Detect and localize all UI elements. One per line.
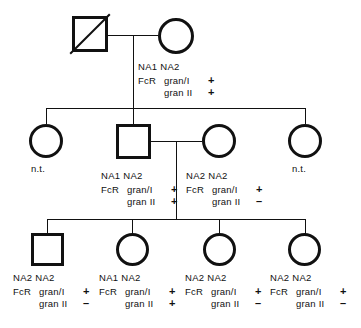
genotype-gran2-row: gran II– <box>270 297 347 310</box>
sibship-line-gen2 <box>46 108 305 109</box>
genotype-gran1-row: FcRgran/I+ <box>99 285 176 298</box>
gran2-sign: – <box>256 195 262 208</box>
descent-line-gen1 <box>133 35 134 108</box>
sibling-drop-line-II-4 <box>305 108 306 124</box>
gran1-sign: + <box>171 183 178 196</box>
genotype-alleles: NA1 NA2 <box>99 272 176 285</box>
gran2-sign: + <box>171 195 178 208</box>
genotype-gran2-row: gran II+ <box>99 297 176 310</box>
genotype-gran1-row: FcRgran/I+ <box>101 183 178 196</box>
genotype-gran2-row: gran II– <box>185 297 262 310</box>
pedigree-chart: NA1 NA2 FcRgran/I+ gran II+ n.t. n.t. NA… <box>0 0 361 328</box>
individual-II-4-female-symbol <box>288 124 322 158</box>
genotype-alleles: NA2 NA2 <box>185 272 262 285</box>
genotype-alleles: NA2 NA2 <box>13 272 90 285</box>
genotype-gen1-mother: NA1 NA2 FcRgran/I+ gran II+ <box>138 61 215 99</box>
individual-III-4-female-symbol <box>288 233 321 266</box>
genotype-gen2-father: NA1 NA2 FcRgran/I+ gran II+ <box>101 170 178 208</box>
genotype-gran2-row: gran II– <box>186 195 263 208</box>
gran2-label: gran II <box>39 298 83 311</box>
genotype-gran1-row: FcRgran/I+ <box>270 285 347 298</box>
genotype-alleles: NA2 NA2 <box>186 170 263 183</box>
sibling-drop-line-III-3 <box>219 219 220 234</box>
gran2-label: gran II <box>127 196 171 209</box>
gran1-sign: + <box>256 183 263 196</box>
genotype-gen3-child3: NA2 NA2 FcRgran/I+ gran II– <box>185 272 262 310</box>
genotype-gen2-mother: NA2 NA2 FcRgran/I+ gran II– <box>186 170 263 208</box>
genotype-gran1-row: FcRgran/I+ <box>13 285 90 298</box>
genotype-alleles: NA2 NA2 <box>270 272 347 285</box>
not-tested-label-II-1: n.t. <box>31 163 45 175</box>
sibling-drop-line-III-1 <box>47 219 48 234</box>
individual-I-2-female-symbol <box>158 18 194 54</box>
gran2-label: gran II <box>211 298 255 311</box>
sibling-drop-line-II-2 <box>133 108 134 124</box>
gran2-label: gran II <box>212 196 256 209</box>
gran2-label: gran II <box>125 298 169 311</box>
genotype-gen3-child1: NA2 NA2 FcRgran/I+ gran II– <box>13 272 90 310</box>
gran1-sign: + <box>169 285 176 298</box>
gran1-sign: + <box>340 285 347 298</box>
genotype-alleles: NA1 NA2 <box>138 61 215 74</box>
gran2-label: gran II <box>296 298 340 311</box>
gran2-sign: – <box>255 297 261 310</box>
individual-III-2-female-symbol <box>116 233 149 266</box>
genotype-gran2-row: gran II– <box>13 297 90 310</box>
individual-II-3-female-symbol <box>202 124 236 158</box>
sibling-drop-line-II-1 <box>46 108 47 124</box>
gran2-sign: – <box>83 297 89 310</box>
genotype-gran2-row: gran II+ <box>101 195 178 208</box>
individual-III-3-female-symbol <box>203 233 236 266</box>
gran2-label: gran II <box>164 87 208 100</box>
individual-III-1-male-symbol <box>31 233 64 266</box>
sibling-drop-line-III-2 <box>132 219 133 234</box>
genotype-gran1-row: FcRgran/I+ <box>185 285 262 298</box>
genotype-gen3-child4: NA2 NA2 FcRgran/I+ gran II– <box>270 272 347 310</box>
gran1-sign: + <box>255 285 262 298</box>
sibling-drop-line-III-4 <box>305 219 306 234</box>
genotype-gran2-row: gran II+ <box>138 86 215 99</box>
individual-II-2-male-symbol <box>116 124 151 159</box>
gran2-sign: – <box>340 297 346 310</box>
sibship-line-gen3 <box>47 219 305 220</box>
gran2-sign: + <box>208 86 215 99</box>
genotype-gen3-child2: NA1 NA2 FcRgran/I+ gran II+ <box>99 272 176 310</box>
gran2-sign: + <box>169 297 176 310</box>
individual-II-1-female-symbol <box>29 124 63 158</box>
genotype-gran1-row: FcRgran/I+ <box>186 183 263 196</box>
gran1-sign: + <box>208 74 215 87</box>
gran1-sign: + <box>83 285 90 298</box>
not-tested-label-II-4: n.t. <box>292 163 306 175</box>
genotype-gran1-row: FcRgran/I+ <box>138 74 215 87</box>
genotype-alleles: NA1 NA2 <box>101 170 178 183</box>
